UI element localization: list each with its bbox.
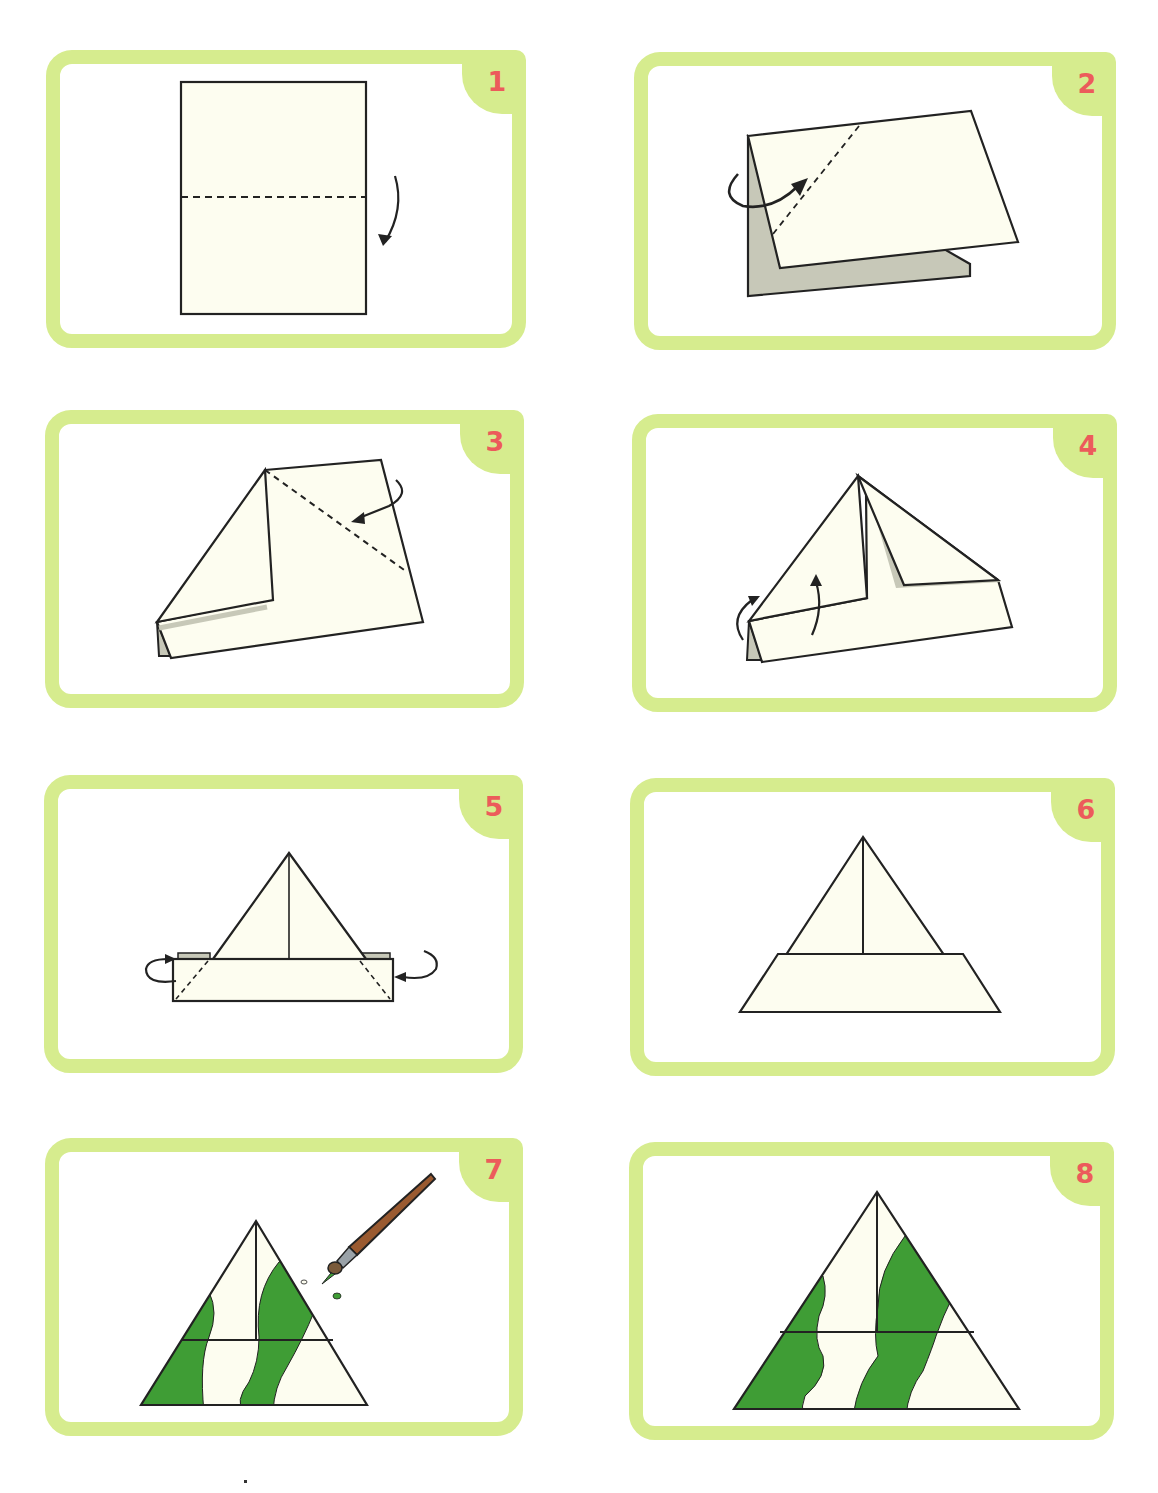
step-card-2: 2 bbox=[634, 52, 1116, 350]
step-card-8: 8 bbox=[629, 1142, 1114, 1440]
step-1-illustration bbox=[60, 64, 512, 334]
stray-mark bbox=[244, 1480, 247, 1483]
step-6-illustration bbox=[644, 792, 1101, 1062]
step-4-illustration bbox=[646, 428, 1103, 698]
step-card-1: 1 bbox=[46, 50, 526, 348]
step-card-4: 4 bbox=[632, 414, 1117, 712]
step-card-7: 7 bbox=[45, 1138, 523, 1436]
step-8-illustration bbox=[643, 1156, 1100, 1426]
step-2-illustration bbox=[648, 66, 1102, 336]
step-7-illustration bbox=[59, 1152, 509, 1422]
step-card-6: 6 bbox=[630, 778, 1115, 1076]
paintbrush-icon bbox=[301, 1174, 435, 1299]
step-5-illustration bbox=[58, 789, 509, 1059]
step-card-5: 5 bbox=[44, 775, 523, 1073]
fold-arrow-icon bbox=[394, 972, 406, 982]
step-card-3: 3 bbox=[45, 410, 524, 708]
step-3-illustration bbox=[59, 424, 510, 694]
fold-arrow-icon bbox=[378, 234, 392, 246]
